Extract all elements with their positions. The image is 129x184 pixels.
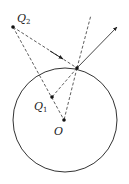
point-o [62, 118, 66, 122]
reflected-ray [77, 27, 117, 68]
label-q2: Q2 [17, 12, 31, 26]
reflection-diagram: Q2 Q1 O [0, 0, 129, 184]
point-q2 [11, 25, 15, 29]
incident-arrow [50, 51, 63, 59]
p-to-q1-line [52, 68, 77, 97]
diagram-canvas: Q2 Q1 O [0, 0, 129, 184]
normal-extension [77, 15, 91, 68]
label-q1: Q1 [34, 100, 48, 114]
point-p [75, 66, 79, 70]
point-q1 [50, 95, 54, 99]
incident-ray [13, 27, 77, 68]
label-o: O [54, 125, 63, 138]
